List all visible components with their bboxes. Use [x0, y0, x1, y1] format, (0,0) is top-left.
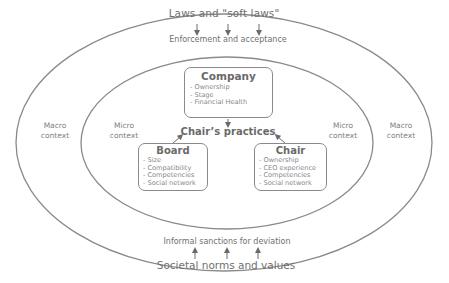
enforcement-label: Enforcement and acceptance — [169, 35, 286, 44]
informal-sanctions-label: Informal sanctions for deviation — [163, 237, 290, 246]
list-item: - Financial Health — [190, 99, 267, 107]
micro-context-right-label: Micro context — [326, 121, 360, 141]
chairs-practices-label: Chair’s practices — [181, 126, 276, 137]
societal-norms-label: Societal norms and values — [157, 259, 296, 271]
bottom-arrows — [195, 250, 258, 259]
chair-box: Chair - Ownership - CEO experience - Com… — [254, 143, 327, 191]
chair-factors-list: - Ownership - CEO experience - Competenc… — [259, 157, 322, 187]
macro-context-ellipse — [16, 14, 432, 271]
laws-label: Laws and "soft laws" — [169, 7, 280, 19]
company-factors-list: - Ownership - Stage - Financial Health — [190, 84, 267, 107]
top-arrows — [197, 24, 259, 33]
micro-context-left-label: Micro context — [107, 121, 141, 141]
board-box: Board - Size - Compatibility - Competenc… — [138, 143, 208, 191]
company-box: Company - Ownership - Stage - Financial … — [184, 67, 273, 118]
list-item: - Social network — [259, 180, 322, 188]
macro-context-right-label: Macro context — [384, 121, 418, 141]
list-item: - Social network — [143, 180, 203, 188]
macro-context-left-label: Macro context — [38, 121, 72, 141]
company-title: Company — [190, 70, 267, 82]
board-factors-list: - Size - Compatibility - Competencies - … — [143, 157, 203, 187]
